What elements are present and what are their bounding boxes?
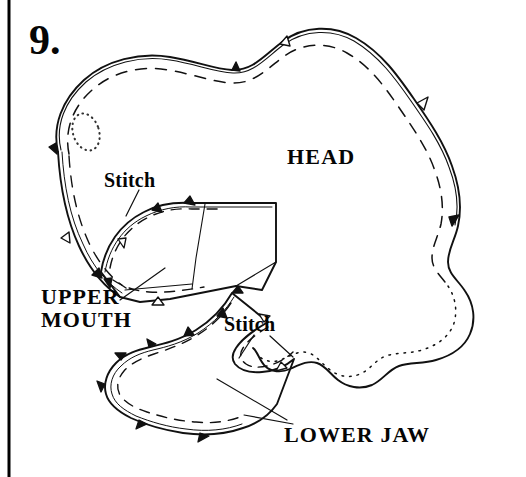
head-seam-line-dashed <box>68 45 448 286</box>
upper-mouth-seam-line <box>110 209 222 292</box>
step-number: 9. <box>29 18 61 63</box>
label-stitch-lower: Stitch <box>224 314 275 335</box>
pattern-diagram-illustration <box>0 0 526 477</box>
head-notch-marks <box>49 36 459 278</box>
upper-mouth-fold-line <box>192 204 276 289</box>
label-head: HEAD <box>287 145 355 168</box>
label-stitch-upper: Stitch <box>104 170 155 191</box>
pattern-diagram-page: 9. HEAD Stitch Stitch UPPER MOUTH LOWER … <box>0 0 526 477</box>
label-lower-jaw: LOWER JAW <box>284 423 430 446</box>
upper-mouth-cut-line-ghost <box>105 207 272 272</box>
label-leader-lines <box>120 190 293 424</box>
label-upper-mouth: UPPER MOUTH <box>41 285 132 332</box>
eye-placement-marking <box>68 110 104 154</box>
